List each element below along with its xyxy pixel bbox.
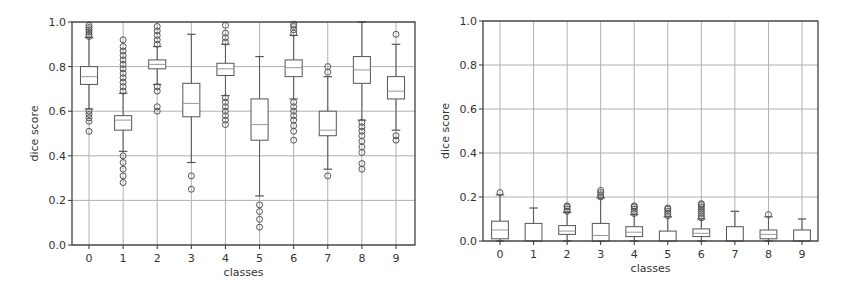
- x-tick-label: 9: [393, 252, 400, 265]
- y-tick-label: 0.8: [460, 59, 478, 72]
- x-axis-ticks: 0123456789: [497, 241, 806, 261]
- box-class-5: [659, 205, 676, 241]
- x-axis-ticks: 0123456789: [86, 245, 400, 265]
- box-series: [492, 187, 811, 241]
- x-axis-label: classes: [224, 266, 264, 279]
- y-tick-label: 0.4: [49, 150, 67, 163]
- box-class-1: [525, 208, 542, 241]
- y-axis-label: dice score: [28, 105, 41, 161]
- y-tick-label: 0.0: [49, 239, 67, 252]
- x-axis-label: classes: [631, 262, 671, 275]
- y-tick-label: 0.0: [460, 235, 478, 248]
- y-tick-label: 0.4: [460, 147, 478, 160]
- x-tick-label: 8: [765, 248, 772, 261]
- x-tick-label: 6: [290, 252, 297, 265]
- x-tick-label: 4: [631, 248, 638, 261]
- x-tick-label: 8: [358, 252, 365, 265]
- y-tick-label: 0.2: [49, 194, 67, 207]
- x-tick-label: 6: [698, 248, 705, 261]
- left-boxplot-figure: 0.00.20.40.60.81.0 0123456789 classes di…: [0, 0, 425, 287]
- y-tick-label: 1.0: [460, 15, 478, 28]
- box-class-4: [626, 203, 643, 241]
- y-tick-label: 0.2: [460, 191, 478, 204]
- x-tick-label: 0: [86, 252, 93, 265]
- x-tick-label: 5: [256, 252, 263, 265]
- left-boxplot-svg: 0.00.20.40.60.81.0 0123456789 classes di…: [0, 0, 425, 287]
- x-tick-label: 1: [530, 248, 537, 261]
- box-class-8: [353, 22, 370, 172]
- y-tick-label: 0.6: [460, 103, 478, 116]
- y-tick-label: 1.0: [49, 16, 67, 29]
- box-series: [80, 21, 404, 230]
- x-tick-label: 7: [731, 248, 738, 261]
- box-class-9: [794, 219, 811, 241]
- box-class-7: [727, 211, 744, 241]
- box-class-6: [693, 201, 710, 241]
- y-axis-label: dice score: [439, 103, 452, 159]
- box-class-3: [592, 187, 609, 241]
- right-boxplot-svg: 0.00.20.40.60.81.0 0123456789 classes di…: [425, 0, 850, 287]
- box-class-7: [319, 64, 336, 179]
- right-boxplot-figure: 0.00.20.40.60.81.0 0123456789 classes di…: [425, 0, 850, 287]
- x-tick-label: 5: [664, 248, 671, 261]
- y-axis-ticks: 0.00.20.40.60.81.0: [49, 16, 73, 252]
- x-tick-label: 4: [222, 252, 229, 265]
- box-class-2: [559, 203, 576, 241]
- box-class-9: [387, 31, 404, 143]
- y-axis-ticks: 0.00.20.40.60.81.0: [460, 15, 484, 248]
- x-tick-label: 7: [324, 252, 331, 265]
- box-class-0: [80, 22, 97, 134]
- x-tick-label: 9: [799, 248, 806, 261]
- y-tick-label: 0.8: [49, 61, 67, 74]
- x-tick-label: 3: [597, 248, 604, 261]
- y-tick-label: 0.6: [49, 105, 67, 118]
- x-tick-label: 2: [154, 252, 161, 265]
- x-tick-label: 0: [497, 248, 504, 261]
- x-tick-label: 2: [564, 248, 571, 261]
- x-tick-label: 1: [120, 252, 127, 265]
- x-tick-label: 3: [188, 252, 195, 265]
